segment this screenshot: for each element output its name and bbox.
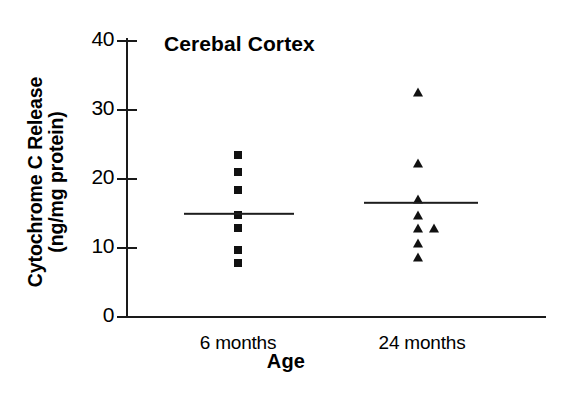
y-axis-title-line-2: (ng/mg protein)	[46, 111, 67, 252]
data-point-24m-2	[413, 158, 423, 167]
y-tick-label: 20	[91, 165, 114, 189]
y-tick-mark	[117, 316, 137, 318]
y-tick-mark	[117, 40, 137, 42]
x-axis-title: Age	[0, 350, 572, 373]
y-tick-label: 30	[91, 96, 114, 120]
x-axis-line	[125, 316, 546, 318]
data-point-6m-7	[234, 259, 242, 267]
mean-line-24-months	[364, 202, 478, 204]
y-tick-mark	[117, 109, 137, 111]
data-point-6m-3	[234, 186, 242, 194]
chart-figure: Cytochrome C Release (ng/mg protein) Cer…	[0, 0, 572, 396]
data-point-24m-5	[413, 223, 423, 232]
y-tick-mark	[117, 247, 137, 249]
y-tick-label: 10	[91, 234, 114, 258]
mean-line-6-months	[184, 213, 294, 215]
chart-title: Cerebal Cortex	[164, 32, 315, 56]
data-point-24m-8	[413, 252, 423, 261]
data-point-6m-6	[234, 246, 242, 254]
y-tick-label: 0	[103, 303, 114, 327]
y-axis-title-line-1: Cytochrome C Release	[25, 77, 46, 287]
data-point-6m-5	[234, 224, 242, 232]
plot-area: Cerebal Cortex 0 10 20 30 40	[126, 40, 546, 316]
y-axis-title: Cytochrome C Release (ng/mg protein)	[16, 22, 76, 342]
y-tick-label: 40	[91, 27, 114, 51]
data-point-24m-6	[429, 223, 439, 232]
data-point-24m-4	[413, 211, 423, 220]
data-point-24m-1	[413, 87, 423, 96]
data-point-6m-1	[234, 151, 242, 159]
data-point-6m-2	[234, 168, 242, 176]
data-point-24m-7	[413, 238, 423, 247]
y-tick-mark	[117, 178, 137, 180]
